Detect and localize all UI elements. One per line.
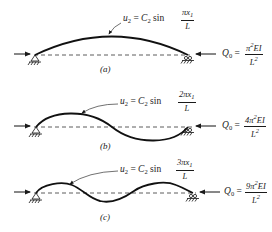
panel-a-load-symbol: Q0 = bbox=[222, 49, 240, 60]
panel-a-mode-shape-equation: u2 = C2 sin bbox=[123, 14, 164, 25]
panel-a-critical-load-fraction: π2EI L2 bbox=[245, 42, 263, 66]
panel-c-right-roller-support-icon bbox=[186, 194, 199, 201]
panel-c-left-pin-support-icon bbox=[29, 193, 42, 203]
buckling-modes-figure: u2 = C2 sin πx1 L Q0 = π2EI L2 (a) u2 = … bbox=[0, 0, 272, 232]
panel-b-left-pin-support-icon bbox=[29, 127, 42, 137]
panel-b-mode-shape-fraction: 2πx1 L bbox=[178, 90, 196, 112]
panel-a-right-roller-support-icon bbox=[181, 56, 194, 63]
panel-b-critical-load-fraction: 4π2EI L2 bbox=[244, 114, 266, 138]
panel-c-mode-shape-fraction: 3πx1 L bbox=[176, 158, 194, 180]
panel-a-caption: (a) bbox=[100, 64, 111, 74]
panel-a-left-pin-support-icon bbox=[28, 55, 41, 65]
panel-a-leader-arrow bbox=[109, 23, 121, 34]
panel-c-caption: (c) bbox=[100, 212, 110, 222]
panel-b-caption: (b) bbox=[100, 141, 111, 151]
panel-a-mode-shape-fraction: πx1 L bbox=[181, 8, 194, 30]
panel-b-leader-arrow bbox=[82, 104, 118, 113]
panel-c-load-symbol: Q0 = bbox=[224, 187, 242, 198]
panel-c-mode-shape-equation: u2 = C2 sin bbox=[120, 165, 161, 176]
panel-c-leader-arrow bbox=[70, 171, 118, 184]
panel-c-mode-shape-curve bbox=[36, 183, 193, 202]
panel-b-mode-shape-equation: u2 = C2 sin bbox=[120, 97, 161, 108]
panel-c-critical-load-fraction: 9π2EI L2 bbox=[245, 180, 267, 204]
panel-a-mode-shape-curve bbox=[35, 37, 188, 56]
panel-b-load-symbol: Q0 = bbox=[222, 121, 240, 132]
